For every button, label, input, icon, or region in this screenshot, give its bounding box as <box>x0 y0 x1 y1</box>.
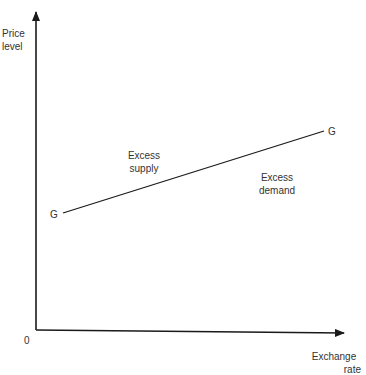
excess-demand-line-1: Excess <box>247 171 307 184</box>
x-axis-label: Exchange rate <box>304 350 364 375</box>
excess-demand-label: Excess demand <box>247 171 307 197</box>
curve-end-label: G <box>328 125 336 138</box>
excess-supply-line-2: supply <box>114 162 174 175</box>
y-axis-label-line-1: Price <box>2 27 25 40</box>
origin-label: 0 <box>24 334 30 347</box>
x-axis <box>36 330 344 333</box>
excess-demand-line-2: demand <box>247 184 307 197</box>
excess-supply-label: Excess supply <box>114 149 174 175</box>
x-axis-label-line-2: rate <box>304 363 364 375</box>
excess-supply-line-1: Excess <box>114 149 174 162</box>
y-axis-label: Price level <box>2 27 25 53</box>
diagram-canvas <box>0 0 366 375</box>
curve-start-label: G <box>50 208 58 221</box>
x-axis-label-line-1: Exchange <box>304 350 364 363</box>
y-axis-label-line-2: level <box>2 40 25 53</box>
